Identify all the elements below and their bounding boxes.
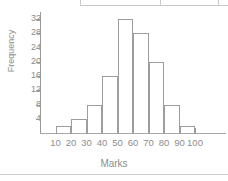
histogram-bar <box>71 119 87 133</box>
histogram-bar <box>133 33 149 133</box>
x-axis-tick-label: 100 <box>183 137 207 148</box>
y-axis-tick <box>36 90 41 91</box>
histogram-bar <box>149 62 165 133</box>
histogram-bar <box>87 105 103 133</box>
page-rule-top-divider-right <box>218 0 219 6</box>
y-axis-tick <box>36 48 41 49</box>
histogram-bar <box>164 105 180 133</box>
y-axis-label: Frequency <box>6 16 16 86</box>
x-axis-tick <box>195 128 196 134</box>
histogram-bar <box>56 126 72 133</box>
histogram-bar <box>180 126 196 133</box>
y-axis-tick <box>36 33 41 34</box>
y-axis-tick <box>36 76 41 77</box>
y-axis-tick <box>36 105 41 106</box>
page-rule-bottom <box>0 174 228 175</box>
x-axis-label: Marks <box>0 158 228 169</box>
histogram-bar <box>102 76 118 133</box>
histogram-figure: Frequency 48121620242832 102030405060708… <box>0 0 228 181</box>
y-axis-tick <box>36 19 41 20</box>
page-rule-top-divider-middle <box>160 0 161 6</box>
y-axis-tick <box>36 119 41 120</box>
y-axis-tick <box>36 62 41 63</box>
page-rule-top <box>80 5 228 6</box>
histogram-bar <box>118 19 134 133</box>
page-rule-top-divider-left <box>80 0 81 6</box>
